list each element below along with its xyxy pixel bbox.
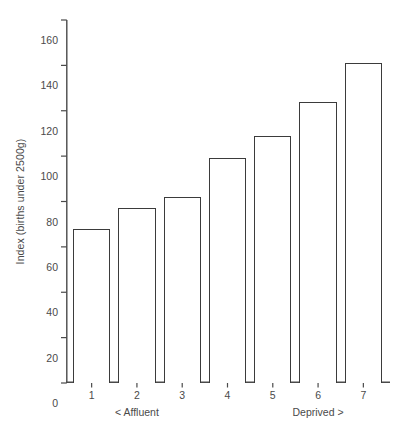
x-axis-tick-label: 3 [162, 389, 202, 401]
y-axis-tick-label: 40 [18, 306, 58, 318]
bar [209, 158, 246, 383]
bar [299, 102, 336, 383]
bar [345, 63, 382, 383]
bar [254, 136, 291, 383]
bar [118, 208, 155, 383]
y-axis-tick-label: 120 [18, 125, 58, 137]
y-axis-tick-label: 60 [18, 261, 58, 273]
y-axis-tick-labels: 020406080100120140160 [16, 20, 58, 383]
y-axis-tick-label: 0 [18, 397, 58, 409]
y-axis-tick-label: 100 [18, 170, 58, 182]
x-axis-tick-label: 2 [117, 389, 157, 401]
y-axis-ticks [61, 20, 67, 383]
affluent-annotation: < Affluent [77, 406, 197, 418]
x-axis-tick-label: 4 [208, 389, 248, 401]
bar [73, 229, 110, 383]
x-axis-ticks [92, 382, 364, 387]
y-axis-tick-label: 20 [18, 352, 58, 364]
x-axis-tick-labels: 1234567 [66, 389, 390, 407]
bar-chart: Index (births under 2500g) 0204060801001… [0, 0, 410, 436]
x-axis-tick-label: 5 [253, 389, 293, 401]
deprived-annotation: Deprived > [258, 406, 378, 418]
y-axis-tick-label: 140 [18, 79, 58, 91]
x-axis-tick-label: 1 [72, 389, 112, 401]
x-axis-tick-label: 7 [343, 389, 383, 401]
y-axis-tick-label: 80 [18, 216, 58, 228]
x-axis-tick-label: 6 [298, 389, 338, 401]
bar [164, 197, 201, 383]
plot-area [66, 20, 390, 383]
y-axis-tick-label: 160 [18, 34, 58, 46]
